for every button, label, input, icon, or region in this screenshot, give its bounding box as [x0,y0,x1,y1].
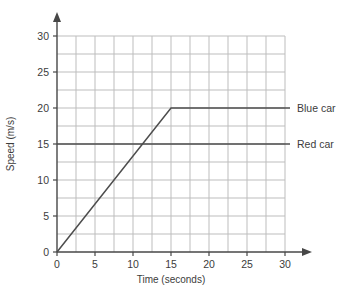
series-label-blue-car: Blue car [297,102,336,114]
x-tick-label: 30 [279,258,291,270]
y-tick-label: 0 [43,246,49,258]
y-tick-label: 10 [37,174,49,186]
axes-layer [53,12,312,256]
x-axis-arrow-icon [302,248,312,256]
y-tick-label: 15 [37,138,49,150]
x-axis-title: Time (seconds) [137,274,206,285]
chart-svg: 051015202530051015202530Time (seconds)Sp… [0,0,341,304]
y-tick-label: 30 [37,30,49,42]
speed-time-chart: 051015202530051015202530Time (seconds)Sp… [0,0,341,304]
y-tick-label: 25 [37,66,49,78]
x-tick-label: 0 [54,258,60,270]
y-tick-label: 5 [43,210,49,222]
x-tick-label: 20 [203,258,215,270]
x-tick-label: 25 [241,258,253,270]
y-axis-title: Speed (m/s) [5,117,16,171]
series-label-red-car: Red car [297,138,334,150]
y-axis-arrow-icon [53,12,61,22]
y-tick-label: 20 [37,102,49,114]
x-tick-label: 5 [92,258,98,270]
x-tick-label: 10 [127,258,139,270]
x-tick-label: 15 [165,258,177,270]
